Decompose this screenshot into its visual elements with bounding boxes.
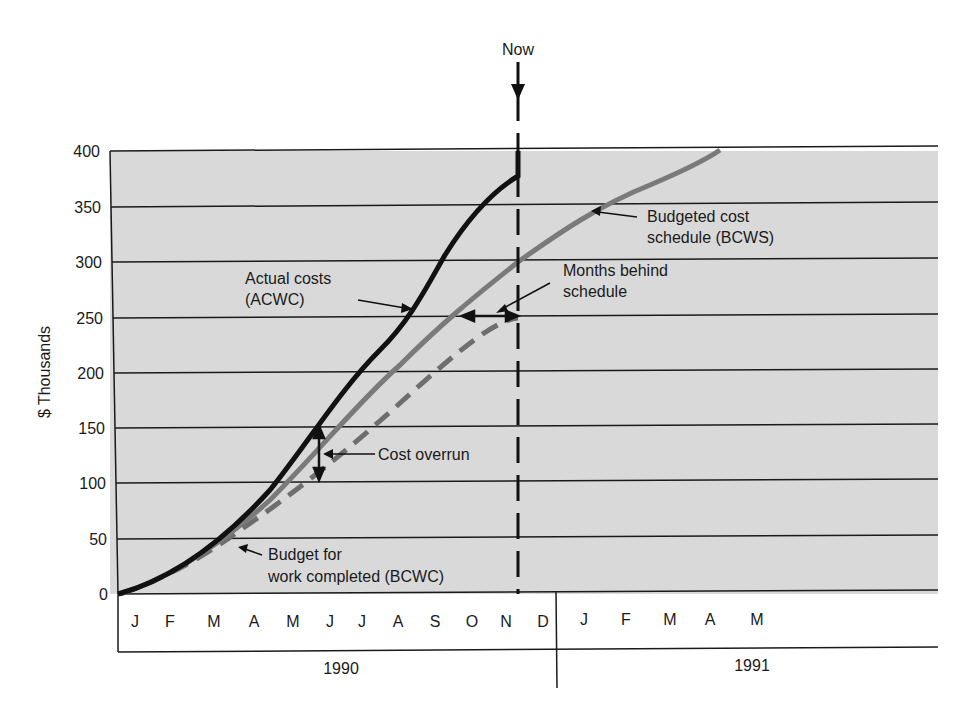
y-tick-label: 150 (78, 420, 105, 437)
annotation-actual-costs-line2: (ACWC) (245, 291, 305, 308)
month-label: A (249, 613, 260, 630)
month-label: F (621, 611, 631, 628)
month-label: D (537, 613, 549, 630)
month-label: J (580, 611, 588, 628)
annotation-actual-costs: Actual costs (245, 270, 331, 287)
y-tick-labels: 400 350 300 250 200 150 100 50 0 (73, 143, 108, 603)
month-label: J (326, 613, 334, 630)
month-label: J (131, 613, 139, 630)
y-tick-label: 350 (74, 199, 101, 216)
month-label: N (500, 613, 512, 630)
month-label: M (286, 613, 299, 630)
month-label: J (358, 613, 366, 630)
y-tick-label: 50 (89, 531, 107, 548)
annotation-bcwc-line2: work completed (BCWC) (267, 568, 444, 585)
annotation-bcwc: Budget for (268, 546, 343, 563)
annotation-bcws-line2: schedule (BCWS) (647, 229, 774, 246)
month-label: M (750, 611, 763, 628)
y-tick-label: 250 (76, 310, 103, 327)
annotation-bcws: Budgeted cost (647, 208, 750, 225)
month-label: O (466, 613, 478, 630)
annotation-months-behind-line2: schedule (563, 283, 627, 300)
month-label: M (663, 611, 676, 628)
y-tick-label: 0 (99, 586, 108, 603)
month-label: A (705, 611, 716, 628)
x-axis-frame (118, 592, 938, 688)
month-labels-1990: J F M A M J J A S O N D (131, 613, 549, 630)
now-label: Now (502, 41, 534, 58)
y-tick-label: 200 (77, 365, 104, 382)
annotation-cost-overrun: Cost overrun (378, 446, 470, 463)
year-label-1991: 1991 (734, 657, 770, 674)
month-label: M (207, 613, 220, 630)
annotation-months-behind: Months behind (563, 262, 668, 279)
y-tick-label: 400 (73, 143, 100, 160)
y-axis-label: $ Thousands (36, 326, 53, 418)
year-label-1990: 1990 (323, 660, 359, 677)
month-label: A (393, 613, 404, 630)
y-tick-label: 100 (79, 475, 106, 492)
month-label: F (165, 613, 175, 630)
earned-value-chart: 400 350 300 250 200 150 100 50 0 $ Thous… (0, 0, 970, 719)
y-tick-label: 300 (75, 254, 102, 271)
now-arrow-icon (511, 62, 525, 100)
month-label: S (430, 613, 441, 630)
month-labels-1991: J F M A M (580, 611, 764, 628)
